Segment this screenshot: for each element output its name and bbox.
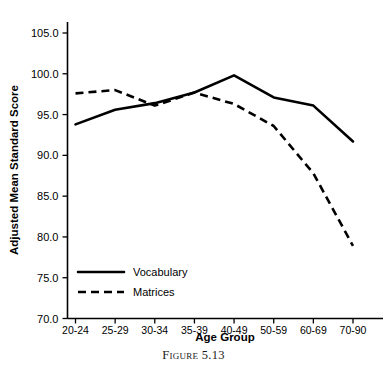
data-series-group — [76, 75, 354, 245]
x-axis-tick-label: 20-24 — [62, 324, 89, 336]
figure-caption: Figure 5.13 — [0, 348, 387, 363]
series-line-matrices — [76, 90, 354, 246]
series-line-vocabulary — [76, 75, 354, 141]
legend-label-vocabulary: Vocabulary — [133, 266, 188, 278]
y-axis-tick-label: 85.0 — [37, 190, 58, 202]
y-axis-tick-labels: 70.075.080.085.090.095.0100.0105.0 — [31, 27, 59, 325]
y-axis-tick-label: 75.0 — [37, 272, 58, 284]
x-axis-tick-label: 50-59 — [260, 324, 287, 336]
y-axis-title: Adjusted Mean Standard Score — [8, 85, 20, 255]
y-axis: 70.075.080.085.090.095.0100.0105.0 — [31, 22, 68, 325]
y-axis-tick-label: 95.0 — [37, 109, 58, 121]
y-axis-tick-label: 105.0 — [31, 27, 59, 39]
y-axis-tick-label: 90.0 — [37, 149, 58, 161]
line-chart: 70.075.080.085.090.095.0100.0105.0 20-24… — [0, 0, 387, 345]
x-axis-tick-label: 30-34 — [141, 324, 168, 336]
x-axis-tick-label: 60-69 — [300, 324, 327, 336]
y-axis-tick-label: 100.0 — [31, 68, 59, 80]
figure-container: 70.075.080.085.090.095.0100.0105.0 20-24… — [0, 0, 387, 367]
legend-label-matrices: Matrices — [133, 286, 175, 298]
x-axis-title: Age Group — [195, 331, 254, 343]
chart-legend: Vocabulary Matrices — [78, 266, 188, 298]
y-axis-tick-label: 70.0 — [37, 313, 58, 325]
x-axis-tick-label: 70-90 — [340, 324, 367, 336]
x-axis-tick-label: 25-29 — [102, 324, 129, 336]
y-axis-tick-label: 80.0 — [37, 231, 58, 243]
